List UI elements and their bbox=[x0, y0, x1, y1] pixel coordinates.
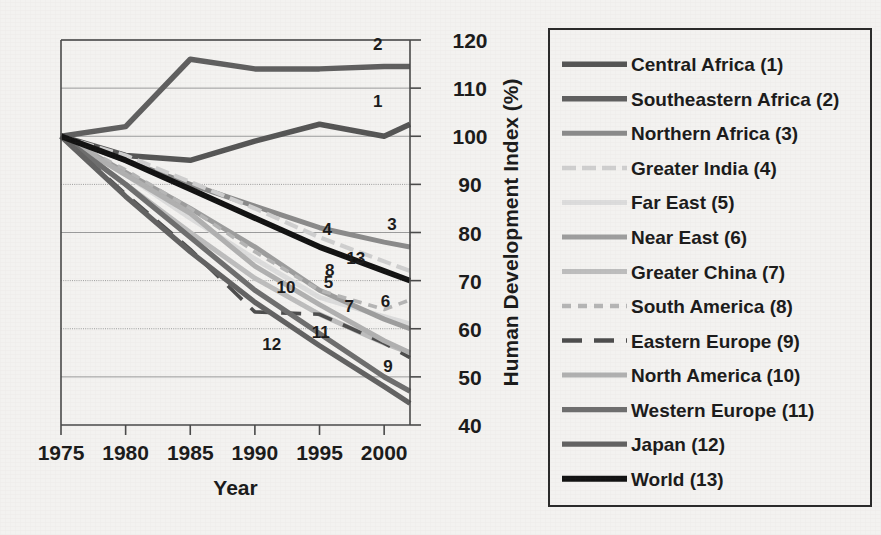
series-tag-4: 4 bbox=[323, 220, 333, 239]
x-tick-label-1975: 1975 bbox=[38, 441, 85, 464]
legend-label-1: Central Africa (1) bbox=[631, 54, 783, 75]
series-line-8 bbox=[61, 136, 410, 309]
series-line-2 bbox=[61, 59, 410, 136]
series-tag-1: 1 bbox=[373, 92, 382, 111]
y-tick-label-70: 70 bbox=[458, 270, 481, 293]
y-tick-label-80: 80 bbox=[458, 222, 481, 245]
y-tick-label-40: 40 bbox=[458, 414, 481, 437]
series-tag-7: 7 bbox=[345, 297, 354, 316]
figure-root: 4050607080901001101201975198019851990199… bbox=[0, 0, 881, 535]
series-tag-2: 2 bbox=[373, 35, 382, 54]
legend-label-9: Eastern Europe (9) bbox=[631, 331, 800, 352]
chart-figure: 4050607080901001101201975198019851990199… bbox=[0, 0, 881, 535]
legend-label-7: Greater China (7) bbox=[631, 262, 785, 283]
y-tick-label-90: 90 bbox=[458, 173, 481, 196]
series-tag-13: 13 bbox=[346, 249, 365, 268]
y-tick-label-100: 100 bbox=[452, 125, 487, 148]
series-tag-8: 8 bbox=[325, 261, 334, 280]
series-tag-10: 10 bbox=[276, 278, 295, 297]
x-tick-label-1990: 1990 bbox=[232, 441, 279, 464]
y-axis-title: Human Development Index (%) bbox=[499, 78, 522, 386]
legend-label-2: Southeastern Africa (2) bbox=[631, 89, 839, 110]
x-tick-label-2000: 2000 bbox=[361, 441, 408, 464]
legend-label-11: Western Europe (11) bbox=[631, 400, 814, 421]
x-tick-label-1995: 1995 bbox=[296, 441, 343, 464]
series-tag-12: 12 bbox=[262, 335, 281, 354]
y-tick-label-60: 60 bbox=[458, 318, 481, 341]
axis-ticks: 4050607080901001101201975198019851990199… bbox=[38, 29, 488, 464]
series-tag-9: 9 bbox=[383, 357, 392, 376]
y-tick-label-110: 110 bbox=[453, 77, 487, 100]
legend-label-6: Near East (6) bbox=[631, 227, 747, 248]
legend-label-5: Far East (5) bbox=[631, 192, 734, 213]
chart-legend[interactable]: Central Africa (1)Southeastern Africa (2… bbox=[549, 29, 871, 506]
x-axis-title: Year bbox=[213, 476, 257, 499]
series-tags: 12345678910111213 bbox=[262, 35, 396, 376]
series-tag-11: 11 bbox=[312, 323, 330, 342]
legend-label-13: World (13) bbox=[631, 469, 724, 490]
y-tick-label-50: 50 bbox=[458, 366, 481, 389]
legend-label-8: South America (8) bbox=[631, 296, 793, 317]
series-tag-6: 6 bbox=[381, 292, 390, 311]
x-tick-label-1985: 1985 bbox=[167, 441, 214, 464]
y-tick-label-120: 120 bbox=[452, 29, 487, 52]
legend-label-4: Greater India (4) bbox=[631, 158, 777, 179]
legend-label-3: Northern Africa (3) bbox=[631, 123, 798, 144]
x-tick-label-1980: 1980 bbox=[102, 441, 149, 464]
legend-label-12: Japan (12) bbox=[631, 434, 725, 455]
legend-label-10: North America (10) bbox=[631, 365, 800, 386]
series-tag-3: 3 bbox=[387, 215, 396, 234]
series-lines bbox=[61, 59, 410, 403]
